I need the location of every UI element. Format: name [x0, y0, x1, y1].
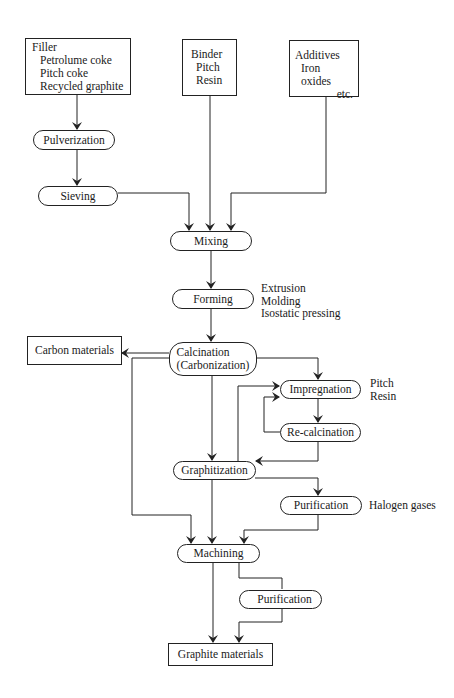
additives-item: etc. [337, 88, 353, 101]
purification-2-node: Purification [239, 590, 322, 609]
additives-item: Iron oxides [295, 62, 353, 88]
mixing-label: Mixing [194, 235, 228, 248]
edge-additives-mixing [231, 96, 326, 230]
carbon-materials-box: Carbon materials [27, 336, 122, 365]
impregnants-note: Pitch Resin [370, 377, 396, 402]
filler-title: Filler [32, 41, 57, 54]
pulverization-node: Pulverization [33, 130, 115, 150]
binder-item: Resin [191, 74, 222, 87]
edge-purification2-graphite [239, 608, 282, 642]
impregnation-label: Impregnation [290, 383, 352, 396]
graphitization-label: Graphitization [181, 464, 247, 477]
purification-agent: Halogen gases [369, 499, 436, 511]
edge-graphitization-purification [255, 478, 318, 495]
machining-label: Machining [194, 547, 244, 560]
purification-label: Purification [294, 499, 348, 512]
forming-node: Forming [172, 289, 254, 309]
impregnant: Resin [370, 390, 396, 403]
calcination-node: Calcination (Carbonization) [169, 342, 257, 376]
edge-recalcination-impregnation [264, 397, 280, 432]
calcination-label: Calcination [177, 346, 250, 359]
sieving-label: Sieving [60, 190, 95, 203]
binder-item: Pitch [191, 61, 220, 74]
filler-box: Filler Petrolume coke Pitch coke Recycle… [25, 38, 131, 95]
filler-item: Pitch coke [32, 67, 88, 80]
recalcination-label: Re-calcination [287, 426, 354, 439]
process-flow-diagram: Filler Petrolume coke Pitch coke Recycle… [0, 0, 454, 698]
purification-2-label: Purification [249, 593, 311, 606]
recalcination-node: Re-calcination [280, 423, 361, 442]
graphite-materials-box: Graphite materials [168, 643, 273, 666]
edge-machining-purification2 [239, 563, 282, 589]
binder-box: Binder Pitch Resin [182, 39, 237, 96]
carbonization-label: (Carbonization) [177, 359, 250, 372]
machining-node: Machining [177, 544, 260, 563]
impregnation-node: Impregnation [280, 380, 361, 399]
sieving-node: Sieving [38, 186, 118, 206]
pulverization-label: Pulverization [43, 134, 104, 147]
forming-method: Isostatic pressing [261, 307, 341, 320]
halogen-gases-note: Halogen gases [369, 499, 436, 512]
edge-purification-machining [244, 515, 318, 543]
filler-item: Recycled graphite [32, 80, 123, 93]
filler-item: Petrolume coke [32, 54, 112, 67]
edge-sieving-mixing [118, 193, 189, 230]
impregnant: Pitch [370, 377, 396, 390]
graphitization-node: Graphitization [173, 461, 256, 480]
edge-calcination-machining [132, 358, 191, 543]
edge-recalcination-graphitization [256, 441, 318, 461]
edge-calcination-impregnation [256, 358, 318, 379]
purification-node: Purification [280, 496, 362, 515]
carbon-materials-label: Carbon materials [35, 344, 114, 357]
graphite-materials-label: Graphite materials [178, 648, 263, 661]
additives-box: Additives Iron oxides etc. [289, 40, 359, 97]
binder-title: Binder [191, 48, 222, 61]
additives-title: Additives [295, 49, 340, 62]
forming-methods-note: Extrusion Molding Isostatic pressing [261, 282, 341, 320]
mixing-node: Mixing [170, 231, 252, 251]
forming-label: Forming [193, 293, 233, 306]
forming-method: Molding [261, 295, 341, 308]
forming-method: Extrusion [261, 282, 341, 295]
